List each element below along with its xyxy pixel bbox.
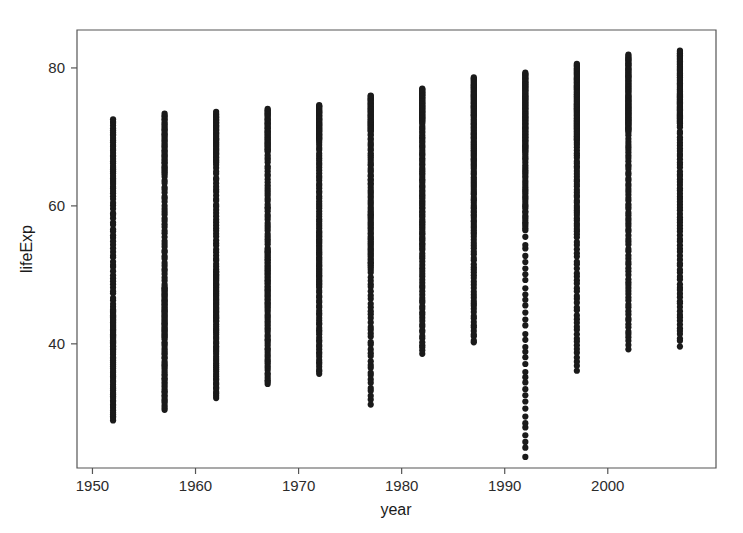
data-point bbox=[522, 331, 528, 337]
data-point bbox=[368, 339, 374, 345]
y-tick-label: 60 bbox=[48, 197, 65, 214]
data-point bbox=[265, 106, 271, 112]
data-point bbox=[522, 271, 528, 277]
data-point bbox=[625, 51, 631, 57]
data-point bbox=[522, 454, 528, 460]
data-point bbox=[522, 265, 528, 271]
data-point bbox=[522, 285, 528, 291]
data-point bbox=[522, 369, 528, 375]
data-point bbox=[522, 337, 528, 343]
data-point bbox=[368, 92, 374, 98]
data-point bbox=[522, 259, 528, 265]
x-tick-label: 1970 bbox=[282, 477, 315, 494]
data-point bbox=[522, 354, 528, 360]
data-point bbox=[522, 386, 528, 392]
data-point bbox=[162, 111, 168, 117]
data-point bbox=[677, 344, 683, 350]
data-point bbox=[522, 242, 528, 248]
data-point bbox=[522, 70, 528, 76]
data-point bbox=[522, 439, 528, 445]
data-point bbox=[471, 74, 477, 80]
data-point bbox=[522, 291, 528, 297]
data-point bbox=[522, 253, 528, 259]
x-tick-label: 1950 bbox=[76, 477, 109, 494]
y-axis-title: lifeExp bbox=[18, 225, 35, 273]
data-point bbox=[677, 48, 683, 54]
data-point bbox=[522, 445, 528, 451]
data-point bbox=[522, 420, 528, 426]
data-point bbox=[419, 86, 425, 92]
data-point bbox=[522, 405, 528, 411]
data-point bbox=[110, 116, 116, 122]
x-tick-label: 1960 bbox=[179, 477, 212, 494]
data-point bbox=[522, 302, 528, 308]
data-point bbox=[522, 344, 528, 350]
data-point bbox=[522, 398, 528, 404]
x-tick-label: 1980 bbox=[385, 477, 418, 494]
data-point bbox=[522, 234, 528, 240]
scatter-plot-figure: 195019601970198019902000 406080 year lif… bbox=[0, 0, 743, 533]
x-tick-label: 1990 bbox=[488, 477, 521, 494]
y-tick-label: 80 bbox=[48, 59, 65, 76]
x-tick-label: 2000 bbox=[591, 477, 624, 494]
data-point bbox=[522, 392, 528, 398]
data-point bbox=[522, 309, 528, 315]
data-point bbox=[574, 61, 580, 67]
x-axis-title: year bbox=[380, 501, 412, 518]
data-point bbox=[522, 414, 528, 420]
data-point bbox=[522, 277, 528, 283]
data-point bbox=[316, 102, 322, 108]
plot-canvas: 195019601970198019902000 406080 year lif… bbox=[0, 0, 743, 533]
data-point bbox=[522, 322, 528, 328]
data-point bbox=[522, 432, 528, 438]
data-point bbox=[213, 109, 219, 115]
y-tick-label: 40 bbox=[48, 335, 65, 352]
data-point bbox=[522, 361, 528, 367]
data-point bbox=[522, 317, 528, 323]
